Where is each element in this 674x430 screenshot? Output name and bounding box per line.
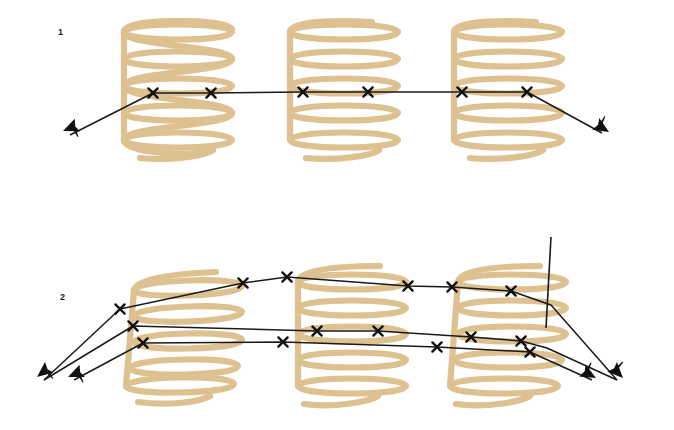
diagram-canvas bbox=[0, 0, 674, 430]
coil-group-panel-1 bbox=[124, 21, 562, 159]
arrow-tack-right bbox=[592, 114, 614, 137]
figure-root: 1 2 bbox=[0, 0, 674, 430]
coil-group-panel-2 bbox=[126, 266, 566, 405]
helix-coil-1-1 bbox=[124, 21, 232, 159]
panel-label-2: 2 bbox=[60, 293, 65, 302]
helix-coil-2-1 bbox=[126, 272, 242, 404]
arrow-tack-right-outer bbox=[607, 358, 631, 382]
arrow-tack-left-inner bbox=[65, 365, 87, 388]
helix-coil-2-2 bbox=[298, 266, 406, 405]
helix-coil-1-3 bbox=[454, 21, 562, 159]
panel-label-1: 1 bbox=[58, 28, 63, 37]
